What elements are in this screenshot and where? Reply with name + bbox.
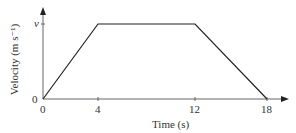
y-axis-arrow-icon	[40, 7, 46, 15]
x-tick-label-18: 18	[261, 104, 272, 115]
y-tick-label-0: 0	[32, 94, 38, 105]
y-tick-label-v: v	[34, 18, 39, 29]
x-tick-label-12: 12	[189, 104, 200, 115]
x-axis-label: Time (s)	[152, 119, 189, 130]
velocity-line	[43, 24, 267, 99]
x-tick-label-4: 4	[95, 104, 101, 115]
x-tick-label-0: 0	[40, 104, 46, 115]
x-axis-arrow-icon	[281, 96, 289, 102]
y-axis-label: Velocity (m s⁻¹)	[8, 20, 21, 100]
